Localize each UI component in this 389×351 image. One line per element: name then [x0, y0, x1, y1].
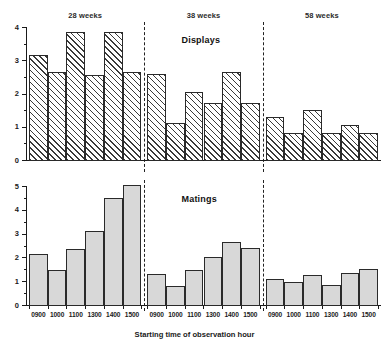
bar-matings-28w-1000	[48, 270, 67, 306]
bar-displays-58w-0900	[266, 117, 285, 161]
y-minor-tick-matings-3.5	[24, 222, 27, 223]
bar-displays-38w-1000	[166, 123, 185, 161]
y-tick-label-matings-1: 1	[7, 277, 19, 286]
y-tick-matings-5	[22, 186, 26, 187]
bar-matings-38w-1000	[166, 286, 185, 306]
x-tick-28w-1300	[85, 306, 86, 309]
x-tick-58w-1000	[284, 306, 285, 309]
group-divider-lower-1	[144, 180, 145, 311]
x-tick-label-38w-1500: 1500	[239, 311, 261, 318]
x-tick-58w-1400	[341, 306, 342, 309]
bar-displays-38w-1500	[241, 103, 260, 161]
y-minor-tick-matings-0.5	[24, 293, 27, 294]
bar-matings-28w-1300	[85, 231, 104, 306]
bar-matings-38w-1500	[241, 248, 260, 306]
x-tick-28w-1100	[66, 306, 67, 309]
bar-matings-28w-1100	[66, 249, 85, 306]
group-divider-1	[144, 22, 145, 172]
x-tick-58w-1300	[322, 306, 323, 309]
y-minor-tick-matings-1.5	[24, 269, 27, 270]
bar-displays-28w-1100	[66, 32, 85, 161]
bar-displays-58w-1100	[303, 110, 322, 161]
bar-matings-38w-1300	[204, 257, 223, 306]
x-tick-38w-1100	[185, 306, 186, 309]
y-tick-label-displays-4: 4	[7, 23, 19, 32]
group-label-1: 28 weeks	[45, 11, 125, 20]
x-tick-end-28w	[141, 306, 142, 309]
x-tick-28w-1400	[104, 306, 105, 309]
y-tick-displays-0	[22, 160, 26, 161]
bar-matings-28w-0900	[29, 254, 48, 306]
y-tick-label-matings-0: 0	[7, 301, 19, 310]
y-tick-displays-1	[22, 127, 26, 128]
y-tick-label-matings-2: 2	[7, 253, 19, 262]
bar-matings-28w-1400	[104, 198, 123, 306]
bar-matings-58w-1400	[341, 273, 360, 306]
bar-displays-58w-1300	[322, 133, 341, 161]
bar-displays-38w-0900	[147, 74, 166, 161]
y-tick-matings-4	[22, 210, 26, 211]
x-tick-38w-1500	[241, 306, 242, 309]
y-tick-matings-0	[22, 305, 26, 306]
x-tick-58w-1100	[303, 306, 304, 309]
bar-displays-28w-1300	[85, 75, 104, 161]
bar-matings-58w-0900	[266, 279, 285, 306]
x-tick-28w-1000	[48, 306, 49, 309]
group-label-2: 38 weeks	[164, 11, 244, 20]
bar-displays-28w-1500	[123, 72, 142, 161]
x-tick-end-38w	[260, 306, 261, 309]
y-tick-displays-2	[22, 94, 26, 95]
bar-matings-58w-1000	[284, 282, 303, 306]
y-tick-label-displays-3: 3	[7, 56, 19, 65]
y-tick-label-displays-2: 2	[7, 89, 19, 98]
x-tick-28w-0900	[29, 306, 30, 309]
bar-matings-58w-1300	[322, 285, 341, 306]
x-tick-38w-1400	[222, 306, 223, 309]
y-axis-displays	[26, 27, 27, 161]
bar-matings-38w-1400	[222, 242, 241, 306]
y-minor-tick-displays-2.5	[24, 77, 27, 78]
bar-displays-28w-1400	[104, 32, 123, 161]
y-minor-tick-matings-2.5	[24, 246, 27, 247]
y-tick-displays-3	[22, 60, 26, 61]
x-tick-label-28w-1500: 1500	[121, 311, 143, 318]
bar-matings-38w-1100	[185, 270, 204, 306]
chart-canvas: 28 weeks38 weeks58 weeks01234Displays012…	[0, 0, 389, 351]
y-tick-label-displays-0: 0	[7, 156, 19, 165]
y-axis-matings	[26, 186, 27, 306]
group-divider-2	[263, 22, 264, 172]
bar-displays-58w-1500	[359, 133, 378, 161]
x-tick-58w-1500	[359, 306, 360, 309]
bar-displays-38w-1100	[185, 92, 204, 161]
y-minor-tick-displays-3.5	[24, 44, 27, 45]
bar-displays-58w-1000	[284, 133, 303, 161]
bar-displays-28w-0900	[29, 55, 48, 161]
bar-matings-38w-0900	[147, 274, 166, 306]
x-tick-38w-1000	[166, 306, 167, 309]
y-tick-label-matings-5: 5	[7, 182, 19, 191]
y-minor-tick-displays-1.5	[24, 110, 27, 111]
bar-matings-28w-1500	[123, 185, 142, 306]
y-minor-tick-matings-4.5	[24, 198, 27, 199]
y-tick-label-matings-4: 4	[7, 205, 19, 214]
y-tick-displays-4	[22, 27, 26, 28]
y-minor-tick-displays-0.5	[24, 143, 27, 144]
x-axis-title: Starting time of observation hour	[0, 330, 389, 339]
x-tick-58w-0900	[266, 306, 267, 309]
x-tick-label-58w-1500: 1500	[358, 311, 380, 318]
x-tick-38w-0900	[147, 306, 148, 309]
x-tick-38w-1300	[203, 306, 204, 309]
x-tick-28w-1500	[123, 306, 124, 309]
panel-title-displays: Displays	[182, 35, 221, 45]
x-tick-end-58w	[378, 306, 379, 309]
bar-displays-58w-1400	[341, 125, 360, 161]
bar-displays-28w-1000	[48, 72, 67, 161]
y-tick-matings-2	[22, 257, 26, 258]
bar-displays-38w-1300	[204, 103, 223, 161]
y-tick-matings-3	[22, 234, 26, 235]
panel-title-matings: Matings	[182, 194, 217, 204]
bar-matings-58w-1500	[359, 269, 378, 306]
y-tick-label-displays-1: 1	[7, 122, 19, 131]
bar-matings-58w-1100	[303, 275, 322, 306]
y-tick-label-matings-3: 3	[7, 229, 19, 238]
